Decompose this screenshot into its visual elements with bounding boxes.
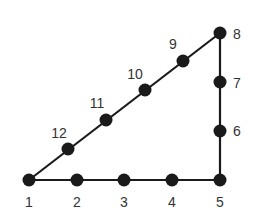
node-6 [214,125,227,138]
node-7 [214,76,227,89]
node-4 [166,174,179,187]
node-label-3: 3 [120,194,128,210]
node-12 [62,143,75,156]
node-9 [177,55,190,68]
node-3 [118,174,131,187]
node-label-2: 2 [73,194,81,210]
node-labels: 123456789101112 [25,26,241,210]
node-5 [214,174,227,187]
node-label-7: 7 [233,75,241,91]
node-label-5: 5 [216,194,224,210]
node-2 [71,174,84,187]
node-label-11: 11 [90,95,105,111]
node-10 [139,84,152,97]
node-label-12: 12 [51,125,67,141]
edge-8-1 [29,33,220,180]
node-1 [23,174,36,187]
edges [29,33,220,180]
node-label-9: 9 [169,36,177,52]
node-label-10: 10 [127,66,143,82]
node-8 [214,27,227,40]
node-label-6: 6 [233,123,241,139]
node-label-8: 8 [233,26,241,42]
triangle-diagram: 123456789101112 [0,0,262,218]
node-11 [100,114,113,127]
node-label-1: 1 [25,194,33,210]
node-label-4: 4 [168,194,176,210]
